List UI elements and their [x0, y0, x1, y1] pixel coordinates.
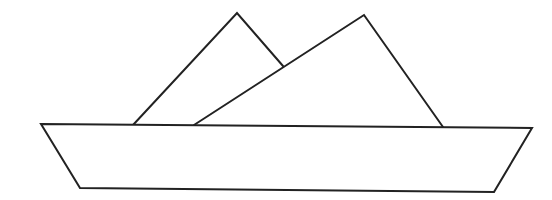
left-sail: [133, 13, 283, 125]
boat-hull: [41, 124, 532, 192]
boat-drawing: [0, 0, 552, 200]
right-sail: [194, 15, 443, 127]
